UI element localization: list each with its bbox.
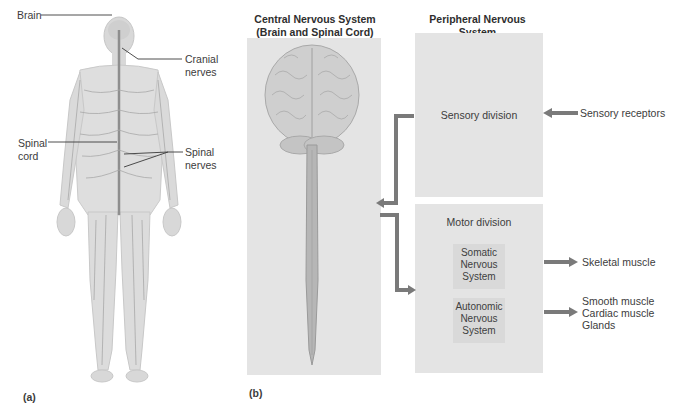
label-cardiac-muscle: Cardiac muscle: [582, 307, 654, 319]
label-glands: Glands: [582, 319, 615, 331]
flow-arrows: [0, 0, 679, 416]
label-smooth-muscle: Smooth muscle: [582, 295, 654, 307]
sensory-to-cns-arrow: [382, 116, 414, 203]
label-sensory-receptors: Sensory receptors: [580, 107, 665, 119]
cns-to-motor-arrow: [380, 215, 410, 290]
label-skeletal-muscle: Skeletal muscle: [582, 256, 656, 268]
